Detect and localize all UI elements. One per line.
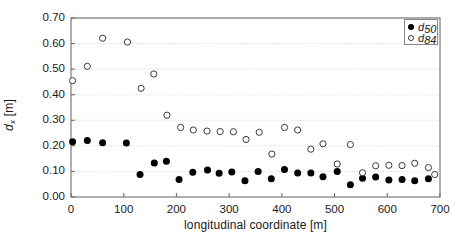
data-point-d50-16 (294, 169, 301, 176)
data-point-d50-6 (163, 158, 170, 165)
series-d50 (69, 137, 432, 188)
data-point-d84-8 (190, 127, 196, 133)
data-point-d84-0 (69, 78, 75, 84)
y-axis-title-unit: [m] (2, 99, 16, 120)
data-point-d84-2 (100, 35, 106, 41)
data-point-d50-9 (204, 166, 211, 173)
data-point-d84-9 (204, 128, 210, 134)
x-tick-label-7: 700 (420, 203, 460, 215)
data-point-d84-3 (124, 39, 130, 45)
data-point-d50-18 (319, 173, 326, 180)
x-tick-label-3: 300 (209, 203, 249, 215)
data-point-d50-26 (425, 175, 432, 182)
data-point-d84-13 (256, 129, 262, 135)
data-point-d50-15 (281, 166, 288, 173)
y-axis-title-sub: x (8, 120, 17, 124)
data-point-d84-4 (138, 85, 144, 91)
data-point-d50-25 (411, 177, 418, 184)
data-point-d84-20 (347, 141, 353, 147)
series-d84 (69, 35, 437, 177)
data-point-d50-24 (399, 176, 406, 183)
data-point-d50-23 (385, 177, 392, 184)
open-circle-icon (408, 35, 414, 41)
y-tick-label-7: 0.70 (31, 11, 65, 23)
y-tick-label-1: 0.10 (31, 164, 65, 176)
data-point-d50-0 (69, 138, 76, 145)
data-point-d50-1 (84, 137, 91, 144)
data-point-d50-22 (372, 174, 379, 181)
data-point-d50-3 (123, 140, 130, 147)
data-point-d84-25 (412, 160, 418, 166)
data-point-d84-17 (308, 146, 314, 152)
data-point-d50-11 (228, 168, 235, 175)
y-axis-title: dx [m] (2, 60, 17, 170)
data-point-d50-8 (189, 169, 196, 176)
data-point-d84-6 (164, 112, 170, 118)
data-point-d50-12 (241, 177, 248, 184)
data-point-d50-17 (307, 169, 314, 176)
y-tick-label-3: 0.30 (31, 113, 65, 125)
data-point-d50-20 (347, 181, 354, 188)
data-point-d50-5 (151, 159, 158, 166)
data-point-d84-10 (217, 128, 223, 134)
x-tick-label-2: 200 (156, 203, 196, 215)
x-tick-label-4: 400 (262, 203, 302, 215)
data-point-d84-19 (334, 161, 340, 167)
data-point-d84-5 (151, 71, 157, 77)
data-point-d50-10 (216, 170, 223, 177)
data-point-d50-4 (137, 171, 144, 178)
data-point-d50-7 (176, 176, 183, 183)
x-tick-label-0: 0 (51, 203, 91, 215)
y-tick-label-2: 0.20 (31, 139, 65, 151)
data-point-d84-12 (243, 136, 249, 142)
data-point-d84-22 (373, 163, 379, 169)
data-point-d84-11 (230, 129, 236, 135)
data-point-d84-1 (84, 63, 90, 69)
chart-figure: dx [m] longitudinal coordinate [m] d50 d… (0, 0, 465, 239)
data-point-d84-7 (178, 124, 184, 130)
data-point-d84-16 (295, 127, 301, 133)
data-point-d84-26 (425, 164, 431, 170)
data-point-d84-18 (320, 141, 326, 147)
data-point-d84-15 (281, 124, 287, 130)
y-tick-label-6: 0.60 (31, 37, 65, 49)
x-axis-title: longitudinal coordinate [m] (71, 218, 440, 232)
data-point-d50-19 (334, 168, 341, 175)
legend-label-d84-sub: 84 (424, 34, 436, 46)
filled-circle-icon (408, 24, 414, 30)
data-point-d50-2 (99, 139, 106, 146)
data-point-d50-14 (268, 175, 275, 182)
legend-item-d84: d84 (408, 32, 436, 44)
data-point-d50-13 (255, 168, 262, 175)
x-tick-label-1: 100 (104, 203, 144, 215)
data-point-d84-23 (386, 162, 392, 168)
data-point-d84-24 (399, 162, 405, 168)
y-tick-label-5: 0.50 (31, 62, 65, 74)
y-tick-label-4: 0.40 (31, 88, 65, 100)
data-point-d84-21 (359, 170, 365, 176)
y-axis-title-base: d (2, 124, 16, 131)
x-tick-label-5: 500 (315, 203, 355, 215)
data-point-d84-14 (269, 151, 275, 157)
y-tick-label-0: 0.00 (31, 190, 65, 202)
data-point-d84-27 (432, 171, 438, 177)
legend: d50 d84 (404, 19, 438, 45)
x-tick-label-6: 600 (367, 203, 407, 215)
